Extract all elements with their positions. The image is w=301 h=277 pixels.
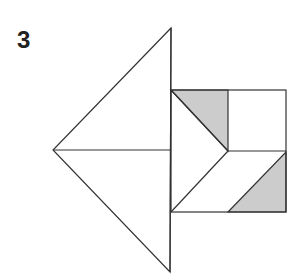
shaded-triangle-bottom bbox=[228, 152, 286, 212]
chevron-lower bbox=[171, 151, 228, 212]
tangram-diagram bbox=[0, 0, 301, 277]
